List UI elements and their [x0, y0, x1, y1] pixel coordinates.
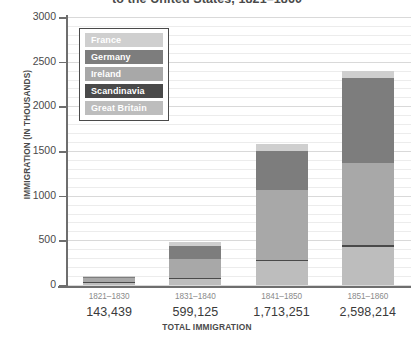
y-tick-label: 2500 [16, 55, 56, 67]
legend-item-label: Ireland [91, 69, 121, 79]
x-tick-label-decade: 1851–1860 [325, 292, 411, 301]
x-tick-label-decade: 1841–1850 [239, 292, 325, 301]
legend: FranceGermanyIrelandScandinaviaGreat Bri… [79, 28, 169, 121]
bar-group[interactable] [256, 17, 308, 285]
bar-segment-germany[interactable] [342, 78, 394, 163]
y-tick-label: 0 [16, 278, 56, 290]
y-tick-label: 2000 [16, 99, 56, 111]
chart-container: to the United States, 1821–1860 IMMIGRAT… [0, 0, 414, 339]
x-tick-label-total: 1,713,251 [239, 305, 325, 319]
stacked-bar[interactable] [169, 232, 221, 286]
bar-segment-france[interactable] [83, 276, 135, 277]
legend-item-label: Great Britain [91, 103, 147, 113]
legend-item-scandinavia[interactable]: Scandinavia [85, 84, 163, 98]
x-tick-label-decade: 1821–1830 [66, 292, 152, 301]
y-tick-mark [59, 151, 66, 153]
x-tick-label-total: 143,439 [66, 305, 152, 319]
bar-segment-great-britain[interactable] [256, 261, 308, 285]
bar-segment-great-britain[interactable] [169, 278, 221, 285]
stacked-bar[interactable] [256, 132, 308, 285]
bar-segment-ireland[interactable] [169, 259, 221, 277]
bar-group[interactable] [169, 17, 221, 285]
legend-item-label: France [91, 35, 121, 45]
y-tick-mark [59, 17, 66, 19]
bar-segment-france[interactable] [169, 242, 221, 246]
y-tick-mark [59, 240, 66, 242]
legend-item-label: Scandinavia [91, 86, 145, 96]
x-axis-column: 1831–1840599,125 [152, 292, 238, 319]
y-tick-label: 1500 [16, 144, 56, 156]
y-tick-mark [59, 62, 66, 64]
y-axis-ticks: 050010001500200025003000 [0, 0, 56, 339]
y-tick-mark [59, 106, 66, 108]
bar-segment-great-britain[interactable] [83, 283, 135, 285]
x-tick-label-decade: 1831–1840 [152, 292, 238, 301]
bar-segment-ireland[interactable] [83, 278, 135, 283]
x-axis-column: 1821–1830143,439 [66, 292, 152, 319]
bar-segment-germany[interactable] [169, 246, 221, 260]
legend-item-ireland[interactable]: Ireland [85, 67, 163, 81]
x-tick-label-total: 2,598,214 [325, 305, 411, 319]
y-tick-label: 1000 [16, 189, 56, 201]
bar-segment-france[interactable] [342, 71, 394, 78]
x-axis-column: 1851–18602,598,214 [325, 292, 411, 319]
x-axis-line [58, 286, 411, 288]
bar-segment-scandinavia[interactable] [342, 245, 394, 247]
x-axis-title: TOTAL IMMIGRATION [0, 322, 414, 332]
bar-segment-germany[interactable] [83, 277, 135, 278]
y-tick-label: 3000 [16, 10, 56, 22]
stacked-bar[interactable] [342, 53, 394, 285]
legend-item-label: Germany [91, 52, 131, 62]
bar-segment-scandinavia[interactable] [256, 260, 308, 261]
y-tick-mark [59, 196, 66, 198]
legend-item-great-britain[interactable]: Great Britain [85, 101, 163, 115]
bar-segment-scandinavia[interactable] [169, 278, 221, 279]
bar-segment-ireland[interactable] [256, 190, 308, 260]
x-axis-column: 1841–18501,713,251 [239, 292, 325, 319]
chart-title: to the United States, 1821–1860 [0, 0, 414, 6]
bar-segment-ireland[interactable] [342, 163, 394, 245]
bar-segment-great-britain[interactable] [342, 247, 394, 285]
bar-segment-france[interactable] [256, 144, 308, 151]
legend-item-germany[interactable]: Germany [85, 50, 163, 64]
legend-item-france[interactable]: France [85, 33, 163, 47]
x-tick-label-total: 599,125 [152, 305, 238, 319]
stacked-bar[interactable] [83, 272, 135, 285]
bar-group[interactable] [342, 17, 394, 285]
bar-segment-germany[interactable] [256, 151, 308, 190]
y-tick-label: 500 [16, 233, 56, 245]
